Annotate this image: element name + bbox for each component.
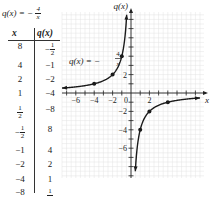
y-tick-label: −4 bbox=[118, 126, 127, 135]
x-tick-label: −2 bbox=[108, 96, 117, 105]
data-point bbox=[138, 128, 142, 132]
data-point bbox=[111, 73, 115, 77]
data-point bbox=[120, 54, 124, 58]
y-axis-label: q(x) bbox=[114, 1, 129, 11]
y-tick-label: −2 bbox=[118, 107, 127, 116]
function-annotation: q(x) = − bbox=[69, 56, 100, 66]
curve-arrow-icon bbox=[124, 15, 128, 20]
x-tick-label: −4 bbox=[90, 96, 99, 105]
x-tick-label: −6 bbox=[72, 96, 81, 105]
data-point bbox=[147, 109, 151, 113]
function-graph: −6−4−2202−2−4−6xq(x)q(x) = −4x bbox=[0, 0, 213, 197]
origin-label: 0 bbox=[124, 96, 128, 105]
y-axis-arrow-icon bbox=[129, 8, 133, 13]
y-tick-label: 2 bbox=[123, 71, 127, 80]
data-point bbox=[92, 82, 96, 86]
curve-arrow-icon bbox=[62, 86, 67, 90]
annotation-numerator: 4 bbox=[116, 50, 120, 58]
curve-arrow-icon bbox=[195, 96, 200, 100]
x-axis-label: x bbox=[204, 95, 209, 105]
x-tick-label: 2 bbox=[147, 96, 151, 105]
y-tick-label: −6 bbox=[118, 144, 127, 153]
data-point bbox=[166, 100, 170, 104]
curve-arrow-icon bbox=[134, 166, 138, 171]
